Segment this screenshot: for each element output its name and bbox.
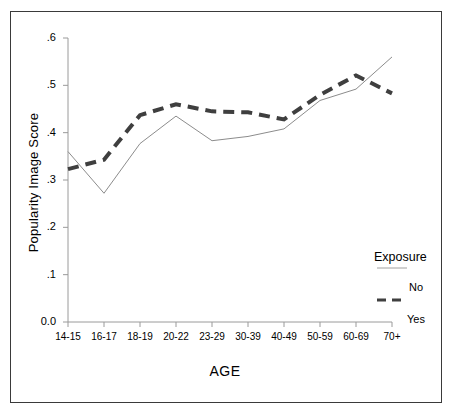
y-tick-label: .5 [26, 78, 56, 90]
x-tick-label: 70+ [369, 331, 415, 342]
y-tick-label: .1 [26, 268, 56, 280]
plot-area [0, 0, 457, 415]
y-axis-ticks [63, 38, 68, 322]
y-tick-label: .6 [26, 31, 56, 43]
legend-label-no: No [409, 281, 423, 293]
y-tick-label: .3 [26, 173, 56, 185]
legend-title: Exposure [374, 250, 427, 264]
data-series-group [68, 57, 392, 193]
y-tick-label: .4 [26, 126, 56, 138]
y-tick-label: .2 [26, 220, 56, 232]
series-line-no [68, 57, 392, 193]
legend-label-yes: Yes [407, 313, 425, 325]
y-tick-label: 0.0 [26, 315, 56, 327]
x-axis-title: AGE [60, 363, 390, 379]
series-line-yes [68, 75, 392, 169]
x-axis-ticks [68, 322, 392, 327]
chart-figure: Popularity Image Score AGE Exposure No Y… [0, 0, 457, 415]
legend-swatches [377, 268, 407, 300]
